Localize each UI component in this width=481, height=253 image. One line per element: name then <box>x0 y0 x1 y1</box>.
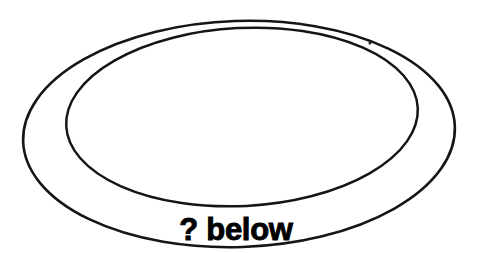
ellipse-ring-diagram: ? below <box>0 0 481 253</box>
diagram-canvas: ? below <box>0 0 481 253</box>
caption-label: ? below <box>179 212 293 247</box>
scan-speck-icon <box>368 41 371 44</box>
